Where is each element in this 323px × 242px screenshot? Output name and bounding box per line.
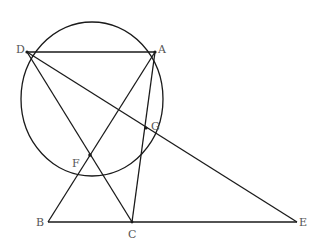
label-B: B — [36, 216, 44, 229]
label-A: A — [157, 43, 167, 56]
point-C — [131, 221, 134, 224]
point-G — [144, 126, 147, 129]
point-A — [153, 50, 156, 53]
label-F: F — [72, 157, 80, 170]
segment-AB — [48, 52, 155, 222]
label-C: C — [128, 228, 136, 241]
point-F — [88, 153, 92, 157]
segment-DC — [27, 52, 132, 222]
geometry-diagram: D A G F B C E — [0, 0, 323, 242]
label-D: D — [16, 43, 25, 56]
point-D — [25, 50, 28, 53]
segment-DE — [27, 52, 297, 222]
label-G: G — [151, 120, 160, 133]
segment-AC — [132, 52, 155, 222]
label-E: E — [299, 216, 307, 229]
